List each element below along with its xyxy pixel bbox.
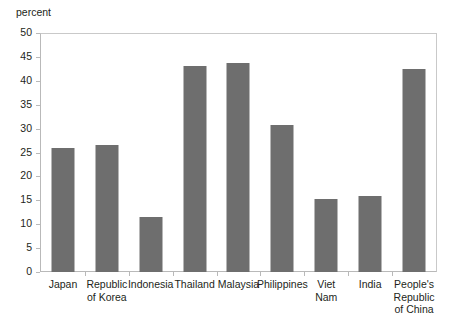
x-axis-category-label-line: of China [386, 303, 442, 316]
bar-slot [41, 33, 85, 272]
bar[interactable] [271, 125, 294, 272]
y-axis-tick-mark [36, 200, 40, 201]
bar-slot [260, 33, 304, 272]
y-axis-tick-mark [36, 224, 40, 225]
y-axis-tick-label: 50 [20, 26, 32, 38]
x-axis-tick-mark [173, 272, 174, 276]
y-axis-tick-mark [36, 129, 40, 130]
bar[interactable] [95, 145, 118, 272]
y-axis-tick-label: 40 [20, 74, 32, 86]
y-axis: 50454035302520151050 [0, 33, 40, 272]
bar[interactable] [315, 199, 338, 272]
y-axis-tick-label: 0 [26, 265, 32, 277]
y-axis-unit-label: percent [16, 6, 51, 18]
x-axis-tick-mark [304, 272, 305, 276]
y-axis-tick-mark [36, 176, 40, 177]
x-axis-labels: JapanRepublicof KoreaIndonesiaThailandMa… [41, 278, 436, 318]
y-axis-tick-mark [36, 153, 40, 154]
bar[interactable] [183, 66, 206, 272]
bar-slot [392, 33, 436, 272]
bar[interactable] [403, 69, 426, 272]
x-axis-tick-mark [129, 272, 130, 276]
bar-slot [348, 33, 392, 272]
bar-slot [173, 33, 217, 272]
y-axis-tick-label: 5 [26, 241, 32, 253]
x-axis-category-label-line: People's [386, 278, 442, 291]
x-axis-ticks [41, 272, 436, 277]
bar-slot [217, 33, 261, 272]
y-axis-tick-mark [36, 57, 40, 58]
bar-slot [85, 33, 129, 272]
bar[interactable] [227, 63, 250, 272]
bar[interactable] [139, 217, 162, 272]
x-axis-category-label-line: Nam [298, 291, 354, 304]
bar-chart: percent 50454035302520151050 JapanRepubl… [0, 0, 449, 318]
y-axis-tick-label: 45 [20, 50, 32, 62]
x-axis-category-label-line: of Korea [79, 291, 135, 304]
y-axis-tick-label: 10 [20, 217, 32, 229]
bar[interactable] [51, 148, 74, 272]
y-axis-tick-label: 15 [20, 193, 32, 205]
bar-slot [129, 33, 173, 272]
y-axis-tick-label: 20 [20, 169, 32, 181]
y-axis-tick-mark [36, 248, 40, 249]
bar-slot [304, 33, 348, 272]
y-axis-tick-label: 35 [20, 98, 32, 110]
y-axis-tick-mark [36, 272, 40, 273]
x-axis-tick-mark [260, 272, 261, 276]
y-axis-tick-label: 25 [20, 146, 32, 158]
y-axis-tick-mark [36, 33, 40, 34]
y-axis-tick-label: 30 [20, 122, 32, 134]
x-axis-category-label: People'sRepublicof China [386, 278, 442, 316]
bar[interactable] [359, 196, 382, 272]
x-axis-tick-mark [217, 272, 218, 276]
y-axis-tick-mark [36, 105, 40, 106]
x-axis-category-label-line: Republic [386, 291, 442, 304]
x-axis-tick-mark [392, 272, 393, 276]
bars-layer [41, 33, 436, 272]
x-axis-tick-mark [85, 272, 86, 276]
y-axis-tick-mark [36, 81, 40, 82]
x-axis-tick-mark [348, 272, 349, 276]
